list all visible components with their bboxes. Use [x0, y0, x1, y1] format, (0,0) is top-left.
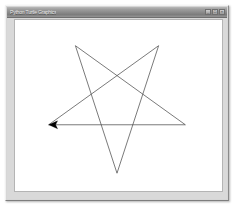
turtle-graphics-window: Python Turtle Graphics _ □ ×	[5, 5, 229, 201]
window-controls: _ □ ×	[205, 9, 225, 15]
maximize-button[interactable]: □	[212, 9, 218, 15]
window-title: Python Turtle Graphics	[10, 9, 56, 15]
turtle-canvas-frame	[14, 19, 223, 192]
star-shape	[49, 46, 186, 174]
turtle-drawing-canvas[interactable]	[15, 20, 222, 191]
close-button[interactable]: ×	[219, 9, 225, 15]
window-client-area	[7, 18, 227, 199]
title-bar[interactable]: Python Turtle Graphics _ □ ×	[7, 7, 227, 18]
minimize-button[interactable]: _	[205, 9, 211, 15]
